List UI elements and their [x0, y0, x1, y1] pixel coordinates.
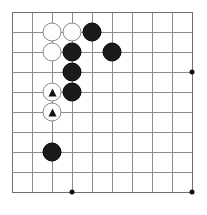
black-stone[interactable]: [103, 43, 122, 62]
grid-line-vertical-1: [12, 12, 13, 192]
black-stone[interactable]: [83, 23, 102, 42]
grid-line-vertical-10: [192, 12, 193, 192]
grid-line-horizontal-1: [12, 12, 192, 13]
caption-strip: [0, 207, 207, 215]
grid-line-vertical-2: [32, 12, 33, 192]
grid-line-horizontal-10: [12, 192, 192, 193]
black-stone[interactable]: [63, 63, 82, 82]
white-stone[interactable]: [43, 43, 62, 62]
star-point-bottom: [70, 190, 75, 195]
grid-line-vertical-7: [132, 12, 133, 192]
go-board-figure: [0, 0, 207, 215]
grid-line-horizontal-8: [12, 152, 192, 153]
white-stone-marked[interactable]: [43, 103, 62, 122]
white-stone-marked[interactable]: [43, 83, 62, 102]
black-stone[interactable]: [43, 143, 62, 162]
white-stone[interactable]: [43, 23, 62, 42]
grid-line-vertical-8: [152, 12, 153, 192]
black-stone[interactable]: [63, 83, 82, 102]
grid-line-horizontal-5: [12, 92, 192, 93]
black-stone[interactable]: [63, 43, 82, 62]
grid-line-horizontal-2: [12, 32, 192, 33]
triangle-mark-icon: [48, 109, 56, 117]
go-board[interactable]: [0, 0, 207, 207]
triangle-mark-icon: [48, 89, 56, 97]
grid-line-vertical-6: [112, 12, 113, 192]
grid-line-horizontal-6: [12, 112, 192, 113]
star-point-bottom-right: [190, 190, 195, 195]
grid-line-horizontal-9: [12, 172, 192, 173]
grid-line-horizontal-7: [12, 132, 192, 133]
white-stone[interactable]: [63, 23, 82, 42]
star-point-right: [190, 70, 195, 75]
grid-line-horizontal-4: [12, 72, 192, 73]
grid-line-vertical-9: [172, 12, 173, 192]
